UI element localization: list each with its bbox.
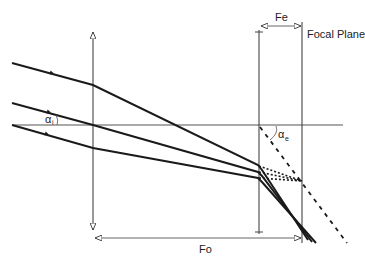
alpha-i-arc xyxy=(56,115,58,125)
alpha-i-label: α xyxy=(45,113,52,125)
telescope-optics-diagram: Fe Focal Plane Fo α i α e xyxy=(0,0,365,260)
ray-top xyxy=(12,63,308,240)
alpha-e-subscript: e xyxy=(285,135,289,142)
fe-label: Fe xyxy=(275,11,288,23)
alpha-e-label: α xyxy=(278,128,285,140)
fo-label: Fo xyxy=(199,243,212,255)
alpha-e-arc xyxy=(270,126,277,140)
focal-plane-label: Focal Plane xyxy=(307,28,365,40)
